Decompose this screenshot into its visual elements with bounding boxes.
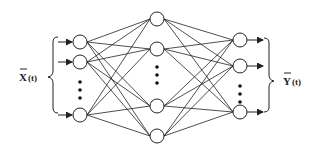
connection-line bbox=[164, 66, 233, 106]
connection-line bbox=[87, 19, 150, 115]
ellipsis-dot bbox=[78, 80, 82, 84]
connection-line bbox=[164, 19, 233, 40]
neuron-nodes bbox=[73, 12, 247, 143]
connection-line bbox=[87, 19, 150, 42]
connection-line bbox=[87, 42, 150, 106]
connection-line bbox=[164, 49, 233, 112]
input-node bbox=[73, 35, 87, 49]
output-brace bbox=[264, 38, 274, 112]
input-node bbox=[73, 55, 87, 69]
output-node bbox=[233, 33, 247, 47]
ellipsis-dot bbox=[78, 96, 82, 100]
input-node bbox=[73, 108, 87, 122]
connection-line bbox=[164, 106, 233, 112]
connection-line bbox=[164, 40, 233, 49]
connection-line bbox=[164, 49, 233, 66]
hidden-node bbox=[150, 99, 164, 113]
hidden-node bbox=[150, 12, 164, 26]
ellipsis-dot bbox=[155, 65, 159, 69]
output-node bbox=[233, 105, 247, 119]
connection-line bbox=[164, 66, 233, 136]
connection-line bbox=[87, 106, 150, 115]
connection-line bbox=[87, 42, 150, 49]
output-label: Y(t) bbox=[283, 75, 301, 87]
neural-network-diagram: X(t) Y(t) bbox=[0, 0, 321, 148]
connection-line bbox=[164, 40, 233, 136]
connection-line bbox=[87, 42, 150, 136]
input-brace bbox=[48, 37, 58, 113]
ellipsis-dot bbox=[78, 88, 82, 92]
hidden-node bbox=[150, 42, 164, 56]
connection-line bbox=[164, 40, 233, 106]
connection-line bbox=[164, 112, 233, 136]
connection-lines bbox=[87, 19, 233, 136]
ellipsis-dot bbox=[238, 92, 242, 96]
connection-line bbox=[87, 49, 150, 115]
ellipsis-dot bbox=[155, 73, 159, 77]
connection-line bbox=[164, 19, 233, 112]
hidden-node bbox=[150, 129, 164, 143]
ellipsis-dot bbox=[238, 100, 242, 104]
ellipsis-dot bbox=[238, 84, 242, 88]
input-label: X(t) bbox=[19, 71, 37, 83]
ellipsis-dot bbox=[155, 81, 159, 85]
output-node bbox=[233, 59, 247, 73]
